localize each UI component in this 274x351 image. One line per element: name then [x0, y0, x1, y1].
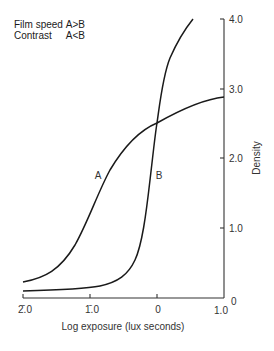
curve-b-label: B [156, 170, 163, 181]
y-tick-labels: 0 1.0 2.0 3.0 4.0 [229, 14, 243, 307]
y-tick-4: 4.0 [229, 14, 243, 25]
characteristic-curve-chart: 0 1.0 2.0 3.0 4.0 2̄.0 1̄.0 0 1.0 Log ex… [0, 0, 274, 351]
x-tick-3: 1.0 [214, 305, 228, 316]
y-tick-1: 1.0 [229, 223, 243, 234]
y-tick-2: 2.0 [229, 153, 243, 164]
x-tick-2: 0 [155, 304, 161, 315]
x-tick-labels: 2̄.0 1̄.0 0 1.0 [18, 304, 228, 316]
x-axis-label: Log exposure (lux seconds) [62, 321, 185, 332]
x-tick-1: 1̄.0 [85, 304, 99, 315]
axes [23, 19, 224, 298]
curve-a [23, 97, 224, 282]
x-tick-0: 2̄.0 [18, 304, 32, 315]
curve-a-label: A [95, 170, 102, 181]
y-tick-0: 0 [231, 296, 237, 307]
curve-b [23, 19, 193, 291]
y-tick-3: 3.0 [229, 84, 243, 95]
y-axis-label: Density [251, 141, 262, 174]
